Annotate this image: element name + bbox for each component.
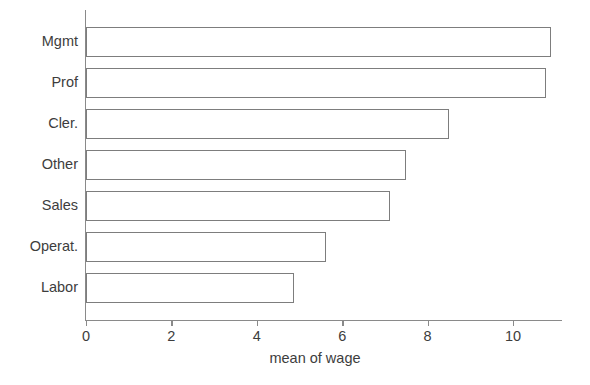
bar-chart: MgmtProfCler.OtherSalesOperat.Labor 0246…: [0, 0, 590, 385]
bar-rect: [86, 27, 551, 57]
x-tick-mark: [342, 320, 343, 326]
x-tick-mark: [171, 320, 172, 326]
category-label: Other: [0, 156, 78, 172]
bar-rect: [86, 109, 449, 139]
bar-cler: [86, 109, 449, 139]
x-tick-mark: [86, 320, 87, 326]
category-label: Cler.: [0, 115, 78, 131]
bar-sales: [86, 191, 390, 221]
bar-rect: [86, 191, 390, 221]
x-tick-mark: [428, 320, 429, 326]
bar-rect: [86, 150, 406, 180]
bar-rect: [86, 273, 294, 303]
x-axis-title: mean of wage: [0, 350, 590, 366]
category-label: Labor: [0, 279, 78, 295]
bar-mgmt: [86, 27, 551, 57]
x-tick-label: 6: [338, 328, 346, 344]
x-tick-label: 2: [167, 328, 175, 344]
x-axis-title-text: mean of wage: [269, 350, 360, 366]
bar-other: [86, 150, 406, 180]
bar-operat: [86, 232, 326, 262]
category-label: Sales: [0, 197, 78, 213]
bar-rect: [86, 232, 326, 262]
x-tick-mark: [513, 320, 514, 326]
category-label: Operat.: [0, 238, 78, 254]
x-axis-line: [85, 320, 562, 321]
x-tick-label: 8: [424, 328, 432, 344]
category-label: Prof: [0, 74, 78, 90]
x-tick-label: 0: [82, 328, 90, 344]
x-tick-mark: [257, 320, 258, 326]
bar-prof: [86, 68, 546, 98]
bar-labor: [86, 273, 294, 303]
x-tick-label: 4: [253, 328, 261, 344]
bar-rect: [86, 68, 546, 98]
category-label: Mgmt: [0, 33, 78, 49]
x-tick-label: 10: [505, 328, 521, 344]
